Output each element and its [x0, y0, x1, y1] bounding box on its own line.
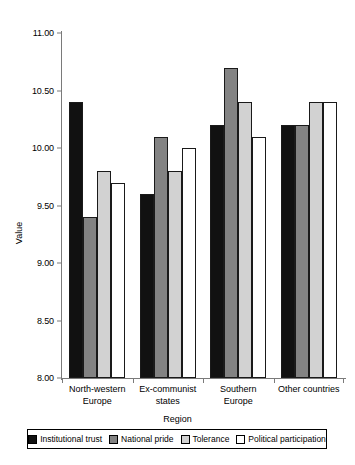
bar[interactable] — [238, 102, 252, 378]
x-axis-category-label-line: states — [133, 395, 204, 407]
bar-slot — [168, 33, 182, 378]
bar-slot — [281, 33, 295, 378]
bar[interactable] — [154, 137, 168, 379]
y-axis-tick: 10.00 — [32, 144, 62, 153]
y-axis-tick-label: 10.50 — [32, 86, 54, 95]
bar-group — [203, 33, 274, 378]
legend-swatch-icon — [181, 435, 190, 444]
legend-swatch-icon — [109, 435, 118, 444]
bar[interactable] — [295, 125, 309, 378]
bar-group — [133, 33, 204, 378]
bar-slot — [69, 33, 83, 378]
x-axis-category-label: SouthernEurope — [203, 383, 274, 407]
y-axis-tick: 9.50 — [37, 201, 62, 210]
bar-slot — [295, 33, 309, 378]
bar-group — [274, 33, 345, 378]
legend-item[interactable]: Institutional trust — [28, 434, 102, 444]
legend-label: Tolerance — [193, 434, 230, 444]
legend-item[interactable]: Political participation — [236, 434, 325, 444]
bar-group — [62, 33, 133, 378]
x-axis-category-label: Other countries — [274, 383, 345, 407]
bar-slot — [154, 33, 168, 378]
y-axis-tick: 8.50 — [37, 316, 62, 325]
y-axis-tick-label: 10.00 — [32, 144, 54, 153]
bar-slot — [111, 33, 125, 378]
bar[interactable] — [182, 148, 196, 378]
x-axis-category-label: North-westernEurope — [62, 383, 133, 407]
legend-label: National pride — [121, 434, 173, 444]
y-axis-tick-label: 9.50 — [37, 201, 54, 210]
legend-label: Institutional trust — [40, 434, 102, 444]
x-axis-category-label-line: North-western — [62, 383, 133, 395]
chart-legend: Institutional trustNational prideToleran… — [27, 429, 327, 449]
y-axis-tick: 10.50 — [32, 86, 62, 95]
x-axis-title: Region — [0, 414, 355, 424]
y-axis-tick: 11.00 — [33, 29, 62, 38]
y-axis-tick: 9.00 — [37, 259, 62, 268]
bar-slot — [97, 33, 111, 378]
bar-groups — [62, 33, 344, 378]
plot-area: 8.008.509.009.5010.0010.5011.00 — [62, 33, 344, 378]
bar[interactable] — [97, 171, 111, 378]
bar[interactable] — [309, 102, 323, 378]
bar-slot — [238, 33, 252, 378]
bar-slot — [210, 33, 224, 378]
x-axis-category-label: Ex-communiststates — [133, 383, 204, 407]
bar[interactable] — [281, 125, 295, 378]
bar[interactable] — [83, 217, 97, 378]
bar-slot — [224, 33, 238, 378]
y-axis-tick-label: 11.00 — [33, 29, 54, 38]
bar[interactable] — [69, 102, 83, 378]
legend-item[interactable]: Tolerance — [181, 434, 230, 444]
legend-label: Political participation — [248, 434, 325, 444]
y-axis-tick-label: 8.00 — [37, 374, 54, 383]
y-axis-title: Value — [14, 221, 24, 243]
x-axis-category-label-line: Europe — [203, 395, 274, 407]
bar-slot — [323, 33, 337, 378]
bar[interactable] — [111, 183, 125, 379]
bar[interactable] — [323, 102, 337, 378]
x-axis-category-labels: North-westernEuropeEx-communiststatesSou… — [62, 383, 344, 407]
x-axis-category-label-line: Europe — [62, 395, 133, 407]
legend-swatch-icon — [28, 435, 37, 444]
bar-chart: Value 8.008.509.009.5010.0010.5011.00 No… — [0, 0, 355, 465]
y-axis-tick: 8.00 — [37, 374, 62, 383]
bar-slot — [83, 33, 97, 378]
x-axis-category-label-line: Other countries — [274, 383, 345, 395]
bar-slot — [309, 33, 323, 378]
y-axis-tick-label: 8.50 — [37, 316, 54, 325]
legend-swatch-icon — [236, 435, 245, 444]
x-axis-category-label-line: Ex-communist — [133, 383, 204, 395]
bar[interactable] — [224, 68, 238, 379]
legend-item[interactable]: National pride — [109, 434, 173, 444]
bar[interactable] — [252, 137, 266, 379]
bar-slot — [252, 33, 266, 378]
bar-slot — [182, 33, 196, 378]
bar[interactable] — [140, 194, 154, 378]
bar[interactable] — [210, 125, 224, 378]
x-axis-category-label-line: Southern — [203, 383, 274, 395]
bar[interactable] — [168, 171, 182, 378]
bar-slot — [140, 33, 154, 378]
y-axis-tick-label: 9.00 — [37, 259, 54, 268]
